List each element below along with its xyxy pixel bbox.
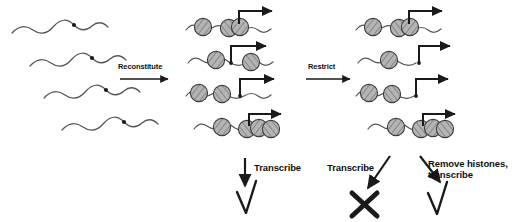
result-symbols: [237, 181, 447, 216]
dna-row-1: [12, 20, 108, 33]
restricted-row-1: [356, 11, 442, 37]
figure-canvas: Reconstitute Restrict Transcribe Transcr…: [0, 0, 520, 222]
promoter-site-marker: [414, 94, 418, 98]
restricted-group: [356, 11, 455, 138]
restriction-site-marker: [90, 56, 94, 60]
restricted-row-2: [358, 46, 450, 69]
check-symbol-right: [428, 182, 447, 214]
dna-row-3: [44, 85, 140, 98]
promoter-arrow: [419, 46, 450, 63]
restriction-site-marker: [72, 23, 76, 27]
restriction-site-marker: [104, 88, 108, 92]
promoter-arrow: [416, 79, 448, 96]
promoter-arrow: [240, 79, 274, 96]
step-label-restrict: Restrict: [308, 63, 335, 72]
chromatin-row-2: [188, 46, 273, 71]
dna-row-4: [62, 117, 158, 130]
promoter-site-marker: [229, 61, 233, 65]
remove-histones-line-1: Remove histones,: [428, 158, 508, 169]
diagram-graphics: [0, 0, 520, 222]
dna-row-2: [30, 53, 126, 66]
outcome-label-transcribe-middle: Transcribe: [254, 163, 301, 174]
restricted-row-4: [368, 114, 455, 138]
chromatin-row-4: [194, 114, 281, 138]
remove-histones-line-2: transcribe: [428, 169, 473, 180]
reconstituted-group: [186, 11, 281, 138]
chromatin-row-3: [186, 79, 274, 103]
cross-symbol-right: [352, 193, 377, 216]
restricted-row-3: [356, 79, 448, 103]
promoter-site-marker: [238, 94, 242, 98]
chromatin-row-1: [186, 11, 272, 37]
restriction-site-marker: [122, 120, 126, 124]
outcome-label-remove-histones: Remove histones, transcribe: [428, 159, 520, 181]
check-symbol-middle: [237, 181, 256, 213]
promoter-site-marker: [417, 61, 421, 65]
outcome-label-transcribe-right: Transcribe: [327, 163, 374, 174]
naked-dna-group: [12, 20, 158, 130]
step-label-reconstitute: Reconstitute: [118, 63, 162, 72]
